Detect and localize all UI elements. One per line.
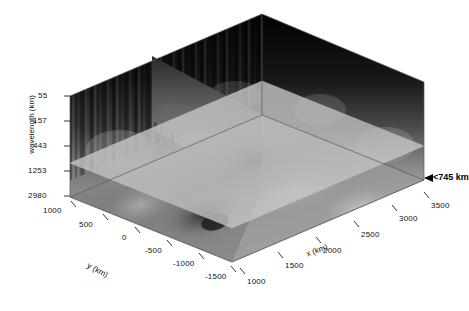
y-tick-label: -1000 — [173, 259, 194, 268]
x-tick-label: 1000 — [247, 277, 266, 286]
y-tick-label: -1500 — [205, 272, 226, 281]
x-tick-label: 3500 — [431, 201, 450, 210]
y-tick-label: 1000 — [43, 206, 62, 215]
y-tick-label: -500 — [145, 246, 162, 255]
y-tick-label: 500 — [79, 220, 93, 229]
depth-marker-label: <745 km — [433, 172, 469, 182]
z-axis-title: wavelength (km) — [27, 85, 36, 165]
x-tick-label: 3000 — [399, 214, 418, 223]
z-tick-label: 1253 — [28, 166, 47, 175]
z-tick-label: 55 — [38, 91, 47, 100]
z-tick-label: 2980 — [28, 191, 47, 200]
x-tick-label: 2500 — [361, 230, 380, 239]
z-axis-ticks — [64, 96, 70, 196]
x-tick-label: 1500 — [285, 261, 304, 270]
y-tick-label: 0 — [122, 233, 127, 242]
depth-marker-arrow — [424, 174, 433, 182]
